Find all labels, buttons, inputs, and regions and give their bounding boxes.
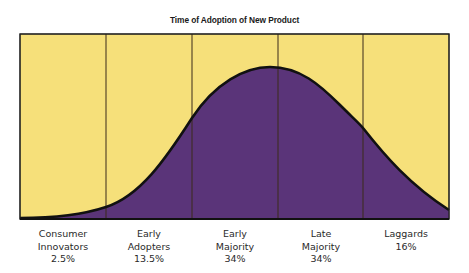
label-late-majority: Late Majority 34% xyxy=(278,228,364,266)
label-consumer-innovators: Consumer Innovators 2.5% xyxy=(20,228,106,266)
label-early-adopters: Early Adopters 13.5% xyxy=(106,228,192,266)
label-laggards: Laggards 16% xyxy=(363,228,449,253)
label-early-majority: Early Majority 34% xyxy=(192,228,278,266)
